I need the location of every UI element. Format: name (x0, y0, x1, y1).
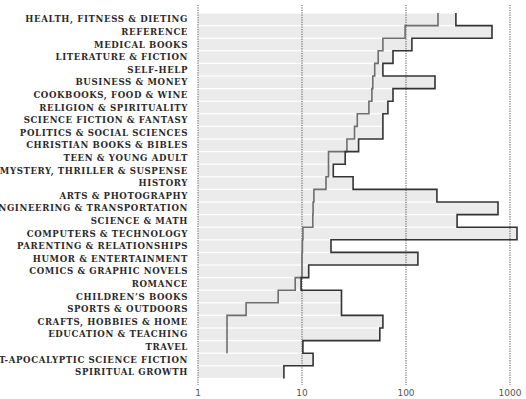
tick-label: 1 (195, 388, 201, 398)
chart: HEALTH, FITNESS & DIETINGREFERENCEMEDICA… (0, 0, 526, 399)
category-label: CHILDREN’S BOOKS (76, 292, 188, 302)
category-label: POST-APOCALYPTIC SCIENCE FICTION (0, 355, 188, 365)
category-label: SPORTS & OUTDOORS (67, 304, 188, 314)
bar (198, 228, 517, 239)
category-label: ENGINEERING & TRANSPORTATION (0, 203, 188, 213)
bar (198, 190, 437, 201)
bar (198, 165, 333, 176)
category-label: SCIENCE & MATH (91, 216, 188, 226)
bar (198, 102, 388, 113)
category-label: ARTS & PHOTOGRAPHY (58, 191, 188, 201)
tick-label: 10 (296, 388, 308, 398)
bar (198, 14, 456, 25)
bars (198, 14, 517, 378)
bar (198, 329, 380, 340)
bar (198, 51, 393, 62)
category-labels: HEALTH, FITNESS & DIETINGREFERENCEMEDICA… (0, 14, 188, 377)
category-label: HUMOR & ENTERTAINMENT (33, 254, 188, 264)
category-label: HISTORY (139, 178, 189, 188)
bar (198, 341, 303, 352)
category-label: PARENTING & RELATIONSHIPS (17, 241, 188, 251)
bar (198, 77, 435, 88)
bar (198, 366, 284, 377)
bar (198, 266, 309, 277)
bar (198, 354, 313, 365)
bar (198, 215, 457, 226)
category-label: SPIRITUAL GROWTH (75, 367, 188, 377)
category-label: MEDICAL BOOKS (94, 40, 188, 50)
category-label: BUSINESS & MONEY (76, 77, 189, 87)
bar (198, 253, 418, 264)
bar (198, 240, 331, 251)
tick-label: 1000 (499, 388, 522, 398)
category-label: ROMANCE (132, 279, 188, 289)
category-label: COOKBOOKS, FOOD & WINE (33, 90, 188, 101)
bar (198, 303, 342, 314)
category-label: SELF-HELP (127, 65, 188, 75)
category-label: REFERENCE (121, 27, 188, 37)
bar (198, 203, 498, 214)
bar (198, 89, 393, 100)
bar (198, 140, 359, 151)
category-label: TRAVEL (146, 342, 188, 352)
category-label: EDUCATION & TEACHING (48, 329, 188, 339)
bar (198, 152, 345, 163)
category-label: TEEN & YOUNG ADULT (63, 153, 188, 163)
category-label: POLITICS & SOCIAL SCIENCES (20, 128, 188, 138)
category-label: CHRISTIAN BOOKS & BIBLES (26, 140, 188, 150)
bar (198, 26, 492, 37)
category-label: SCIENCE FICTION & FANTASY (24, 115, 189, 125)
bar (198, 278, 301, 289)
bar (198, 316, 383, 327)
bar (198, 39, 412, 50)
bar (198, 177, 353, 188)
bar (198, 64, 383, 75)
bar (198, 291, 342, 302)
bar (198, 114, 383, 125)
category-label: RELIGION & SPIRITUALITY (39, 103, 188, 113)
x-axis-ticks: 1101001000 (195, 388, 522, 398)
tick-label: 100 (397, 388, 414, 398)
category-label: HEALTH, FITNESS & DIETING (25, 14, 188, 25)
category-label: LITERATURE & FICTION (56, 52, 188, 62)
category-label: CRAFTS, HOBBIES & HOME (37, 317, 188, 328)
category-label: MYSTERY, THRILLER & SUSPENSE (0, 166, 188, 177)
category-label: COMPUTERS & TECHNOLOGY (27, 229, 189, 239)
category-label: COMICS & GRAPHIC NOVELS (29, 266, 188, 276)
